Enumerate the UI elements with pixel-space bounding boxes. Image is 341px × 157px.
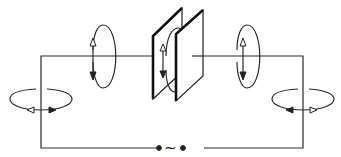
filled-arrow-right-icon — [49, 107, 56, 113]
ac-source: ~ — [157, 139, 186, 157]
wire-right — [192, 56, 303, 148]
capacitor-magnetic-field-diagram: ~ — [0, 0, 341, 157]
terminal-dot-left — [157, 146, 162, 151]
filled-arrow-down-icon — [240, 72, 246, 80]
hollow-arrow-left-icon — [27, 107, 34, 113]
hollow-arrow-up-icon — [240, 38, 246, 46]
hollow-arrow-up-icon — [90, 38, 96, 46]
hollow-arrow-right-icon — [310, 107, 317, 113]
capacitor — [153, 8, 203, 101]
wire-left — [41, 56, 158, 148]
ac-source-symbol: ~ — [164, 139, 177, 157]
terminal-dot-right — [181, 146, 186, 151]
filled-arrow-left-icon — [286, 107, 293, 113]
